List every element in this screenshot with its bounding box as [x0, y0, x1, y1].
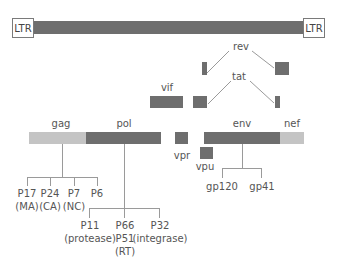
vpu-gene: vpu: [196, 147, 215, 172]
rev-gene: rev: [202, 41, 289, 75]
vpu-label: vpu: [196, 161, 215, 172]
vpr-gene: vpr: [174, 132, 191, 161]
rev-exon-1: [202, 62, 207, 75]
gag-products-tree: P17 (MA) P24 (CA) P7 (NC) P6: [15, 144, 103, 212]
env-product-name: gp120: [206, 181, 238, 192]
vif-label: vif: [161, 82, 174, 93]
env-label: env: [233, 118, 251, 129]
env-product-name: gp41: [249, 181, 274, 192]
gag-product-sub: (CA): [39, 201, 61, 212]
vpr-label: vpr: [174, 150, 191, 161]
pol-product-sub: (integrase): [133, 233, 188, 244]
hiv-genome-diagram: LTR LTR rev tat vif gag pol vpr: [0, 0, 338, 269]
pol-product-sub2: (RT): [115, 246, 135, 257]
tat-label: tat: [232, 71, 246, 82]
pol-gene: pol: [86, 118, 161, 144]
gag-bar: [29, 132, 86, 144]
ltr-left-label: LTR: [14, 23, 31, 34]
env-bar: [204, 132, 280, 144]
gag-product-sub: (NC): [63, 201, 85, 212]
vif-gene: vif: [150, 82, 183, 108]
ltr-right: LTR: [304, 19, 325, 38]
gag-product-sub: (MA): [15, 201, 38, 212]
nef-bar: [280, 132, 304, 144]
tat-connector-right: [250, 81, 274, 103]
gag-product-name: P24: [41, 188, 60, 199]
gag-product-name: P7: [68, 188, 80, 199]
pol-product-name: P32: [151, 220, 170, 231]
pol-bar: [86, 132, 161, 144]
gag-gene: gag: [29, 118, 86, 144]
ltr-right-label: LTR: [305, 23, 322, 34]
vpu-bar: [200, 147, 213, 159]
nef-label: nef: [284, 118, 300, 129]
tat-gene: tat: [193, 71, 280, 108]
env-products-tree: gp120 gp41: [206, 144, 275, 192]
pol-product-sub: (protease): [64, 233, 116, 244]
nef-gene: nef: [280, 118, 304, 144]
vpr-bar: [175, 132, 188, 144]
env-gene: env: [204, 118, 280, 144]
tat-connector-left: [208, 81, 231, 104]
pol-product-name: P11: [81, 220, 100, 231]
pol-product-name: P66: [116, 220, 135, 231]
rev-exon-2: [275, 62, 289, 75]
gag-product-name: P6: [91, 188, 103, 199]
tat-exon-1: [193, 96, 207, 108]
gag-product-name: P17: [18, 188, 37, 199]
tat-exon-2: [275, 96, 280, 108]
pol-label: pol: [116, 118, 131, 129]
rev-label: rev: [233, 41, 249, 52]
rev-connector-left: [206, 51, 229, 74]
ltr-left: LTR: [13, 19, 34, 38]
genome-backbone-bar: [33, 21, 304, 34]
gag-label: gag: [52, 118, 71, 129]
rev-connector-right: [252, 51, 274, 68]
vif-bar: [150, 96, 183, 108]
